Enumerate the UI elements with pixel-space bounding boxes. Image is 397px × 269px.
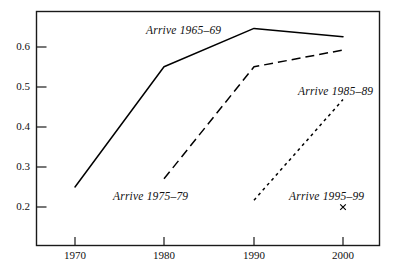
- x-tick-label-2000: 2000: [323, 249, 363, 261]
- series-label-arrive-1965-69: Arrive 1965–69: [146, 24, 221, 36]
- y-tick-label-0-5: 0.5: [4, 80, 30, 92]
- plot-frame: [37, 12, 380, 246]
- series-label-arrive-1985-89: Arrive 1985–89: [298, 85, 373, 97]
- chart-plot-area: [0, 0, 397, 269]
- series-label-arrive-1975-79: Arrive 1975–79: [113, 190, 188, 202]
- chart-figure: 0.6 0.5 0.4 0.3 0.2 1970 1980 1990 2000 …: [0, 0, 397, 269]
- y-tick-label-0-6: 0.6: [4, 40, 30, 52]
- x-tick-label-1970: 1970: [55, 249, 95, 261]
- x-tick-label-1980: 1980: [144, 249, 184, 261]
- x-tick-label-1990: 1990: [234, 249, 274, 261]
- y-tick-label-0-2: 0.2: [4, 200, 30, 212]
- y-tick-label-0-4: 0.4: [4, 120, 30, 132]
- y-tick-label-0-3: 0.3: [4, 160, 30, 172]
- series-label-arrive-1995-99: Arrive 1995–99: [289, 190, 364, 202]
